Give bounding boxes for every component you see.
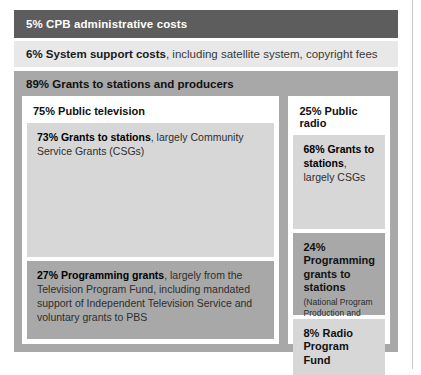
radio-24-bold: 24% Programming grants to stations [303,241,375,295]
page-edge-rule [412,0,413,369]
band-admin-label: 5% CPB administrative costs [26,18,187,30]
band-support-label: 6% System support costs, including satel… [26,48,378,60]
band-grants: 89% Grants to stations and producers 75%… [14,71,398,352]
panel-public-television: 75% Public television 73% Grants to stat… [22,96,279,344]
tv-item-programming-grants: 27% Programming grants, largely from the… [27,261,274,339]
radio-item-programming-grants: 24% Programming grants to stations (Nati… [293,233,385,315]
cpb-funding-infographic: 5% CPB administrative costs 6% System su… [14,10,398,352]
radio-item-program-fund: 8% Radio Program Fund [293,319,385,375]
band-admin-costs: 5% CPB administrative costs [14,10,398,38]
band-system-support: 6% System support costs, including satel… [14,41,398,67]
panel-tv-title: 75% Public television [27,101,274,123]
tv-item-grants-to-stations: 73% Grants to stations, largely Communit… [27,123,274,257]
radio-item-grants-to-stations: 68% Grants to stations, largely CSGs [293,135,385,229]
band-support-rest: , including satellite system, copyright … [166,48,378,60]
band-support-bold: 6% System support costs [26,48,166,60]
tv-73-bold: 73% Grants to stations [37,131,151,143]
grants-columns: 75% Public television 73% Grants to stat… [14,96,398,344]
panel-radio-body: 68% Grants to stations, largely CSGs 24%… [293,135,385,375]
panel-tv-body: 73% Grants to stations, largely Communit… [27,123,274,339]
panel-radio-title: 25% Public radio [293,101,385,135]
panel-public-radio: 25% Public radio 68% Grants to stations,… [288,96,390,344]
radio-8-bold: 8% Radio Program Fund [303,327,375,367]
radio-68-bold: 68% Grants to stations [303,143,374,169]
band-grants-title: 89% Grants to stations and producers [14,71,398,96]
tv-27-bold: 27% Programming grants [37,269,164,281]
